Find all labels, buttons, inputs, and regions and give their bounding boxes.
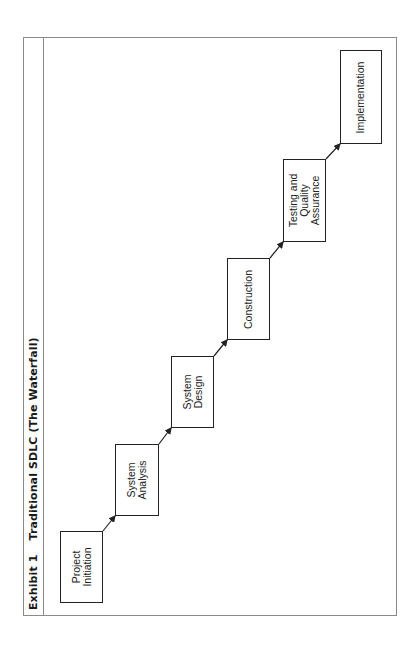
arrow-icon [214,340,227,356]
arrow-icon [326,144,340,159]
arrow-icon [159,428,171,444]
connector-arrows [0,0,420,652]
arrow-icon [103,516,115,531]
arrow-icon [270,242,283,258]
